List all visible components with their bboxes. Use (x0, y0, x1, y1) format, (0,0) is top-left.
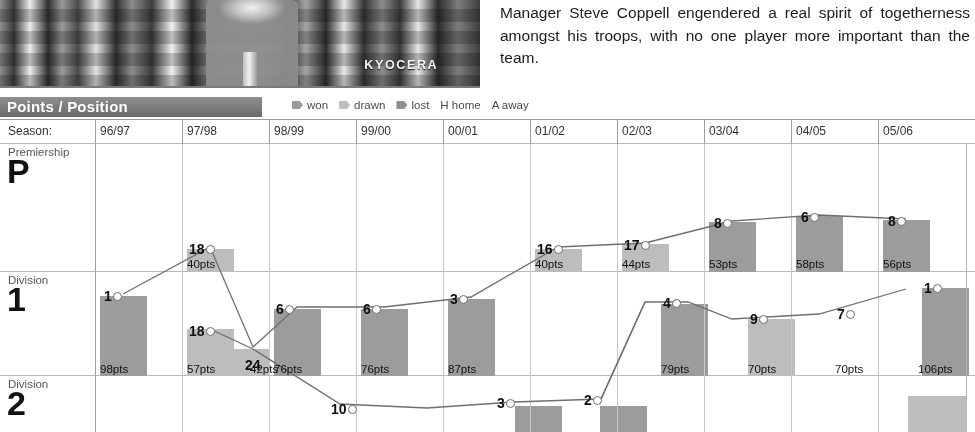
position-value: 4 (663, 295, 671, 311)
position-marker-05-06-prem: 8 (888, 212, 906, 229)
marker-ring-icon (459, 295, 468, 304)
marker-ring-icon (810, 213, 819, 222)
marker-ring-icon (506, 399, 515, 408)
season-label: 05/06 (883, 124, 913, 138)
position-value: 6 (276, 301, 284, 317)
marker-ring-icon (641, 241, 650, 250)
season-column-05-06: 05/06 (878, 120, 965, 144)
marker-ring-icon (897, 217, 906, 226)
marker-ring-icon (285, 305, 294, 314)
season-label: 00/01 (448, 124, 478, 138)
position-value: 10 (331, 401, 347, 417)
position-marker-01-02-d2: 2 (584, 391, 602, 408)
points-position-chart: Season: 96/97 97/98 98/99 99/00 00/01 01… (0, 119, 975, 431)
chart-legend: won drawn lost H home A away (292, 99, 536, 111)
pts-label-05-06-d1: 106pts (918, 363, 953, 375)
season-label: 04/05 (796, 124, 826, 138)
team-photo: KYOCERA (0, 0, 480, 88)
page-title: Points / Position (7, 98, 128, 115)
position-marker-04-05-d1: 7 (837, 305, 855, 322)
season-column-04-05: 04/05 (791, 120, 878, 144)
pts-label-04-05-prem: 58pts (796, 258, 824, 270)
pts-label-03-04-d1: 70pts (748, 363, 776, 375)
position-value: 9 (750, 311, 758, 327)
position-marker-01-02-prem: 16 (537, 240, 563, 257)
season-label: 96/97 (100, 124, 130, 138)
position-value: 17 (624, 237, 640, 253)
marker-ring-icon (348, 405, 357, 414)
pts-label-03-04-prem: 53pts (709, 258, 737, 270)
position-value: 1 (104, 288, 112, 304)
legend-key-home: H home (440, 99, 480, 111)
season-label: 01/02 (535, 124, 565, 138)
season-column-98-99: 98/99 (269, 120, 356, 144)
position-value: 3 (497, 395, 505, 411)
season-header-label: Season: (8, 124, 52, 138)
season-column-02-03: 02/03 (617, 120, 704, 144)
position-value: 3 (450, 291, 458, 307)
position-marker-99-00-d2: 10 (331, 400, 357, 417)
trophy-stem (243, 52, 257, 86)
position-value: 2 (584, 392, 592, 408)
legend-label-drawn: drawn (354, 99, 385, 111)
kyocera-sponsor-text: KYOCERA (364, 58, 438, 72)
position-marker-05-06-d1: 1 (924, 279, 942, 296)
position-marker-98-99-d2: 24 (245, 356, 261, 373)
season-column-03-04: 03/04 (704, 120, 791, 144)
season-label: 98/99 (274, 124, 304, 138)
position-value: 6 (363, 301, 371, 317)
legend-swatch-won (292, 101, 303, 109)
pts-label-05-06-prem: 56pts (883, 258, 911, 270)
position-trend-line (0, 144, 975, 432)
pts-label-00-01: 76pts (361, 363, 389, 375)
position-value: 16 (537, 241, 553, 257)
legend-label-won: won (307, 99, 328, 111)
season-column-96-97: 96/97 (95, 120, 182, 144)
points-position-title-bar: Points / Position (0, 97, 262, 117)
position-marker-96-97: 1 (104, 287, 122, 304)
pts-label-02-03-d1: 79pts (661, 363, 689, 375)
marker-ring-icon (672, 299, 681, 308)
position-value: 18 (189, 241, 205, 257)
season-label: 03/04 (709, 124, 739, 138)
position-value: 6 (801, 209, 809, 225)
season-label: 99/00 (361, 124, 391, 138)
legend-label-lost: lost (411, 99, 429, 111)
marker-ring-icon (593, 396, 602, 405)
marker-ring-icon (759, 315, 768, 324)
pts-label-97-98: 57pts (187, 363, 215, 375)
season-label: 02/03 (622, 124, 652, 138)
position-value: 7 (837, 306, 845, 322)
position-marker-99-00-d1: 6 (363, 300, 381, 317)
position-marker-02-03-d1: 4 (663, 294, 681, 311)
season-column-00-01: 00/01 (443, 120, 530, 144)
legend-swatch-lost (396, 101, 407, 109)
position-value: 18 (189, 323, 205, 339)
pts-label-99-00: 76pts (274, 363, 302, 375)
season-column-01-02: 01/02 (530, 120, 617, 144)
photo-bottom-rule (0, 86, 480, 88)
season-column-99-00: 99/00 (356, 120, 443, 144)
pts-label-04-05-d1: 70pts (835, 363, 863, 375)
top-area: KYOCERA Manager Steve Coppell engendered… (0, 0, 975, 95)
position-marker-00-01-d1: 3 (450, 290, 468, 307)
pts-label-02-03-prem: 44pts (622, 258, 650, 270)
marker-ring-icon (206, 327, 215, 336)
season-column-97-98: 97/98 (182, 120, 269, 144)
legend-swatch-drawn (339, 101, 350, 109)
position-marker-02-03-prem: 17 (624, 236, 650, 253)
marker-ring-icon (206, 245, 215, 254)
pts-label-01-02: 87pts (448, 363, 476, 375)
marker-ring-icon (933, 284, 942, 293)
article-blurb: Manager Steve Coppell engendered a real … (500, 2, 970, 70)
position-value: 24 (245, 357, 261, 373)
position-marker-04-05-prem: 6 (801, 208, 819, 225)
position-marker-03-04-prem: 8 (714, 214, 732, 231)
marker-ring-icon (372, 305, 381, 314)
position-marker-00-01-d2: 3 (497, 394, 515, 411)
plot-area: Premiership P Division 1 Division 2 (0, 144, 975, 432)
position-value: 1 (924, 280, 932, 296)
season-header-row: Season: 96/97 97/98 98/99 99/00 00/01 01… (0, 120, 975, 144)
position-value: 8 (888, 213, 896, 229)
pts-label-97-98-prem: 40pts (187, 258, 215, 270)
